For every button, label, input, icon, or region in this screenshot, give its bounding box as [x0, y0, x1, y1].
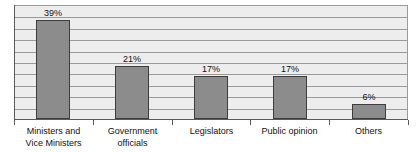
- bars-layer: 39%21%17%17%6%: [14, 5, 408, 119]
- category-label: Ministers and Vice Ministers: [14, 126, 93, 149]
- category-label: Legislators: [172, 126, 251, 138]
- bar-value-label: 17%: [270, 64, 310, 74]
- category-axis-labels: Ministers and Vice MinistersGovernment o…: [14, 126, 408, 152]
- x-axis-line: [14, 119, 408, 120]
- x-axis-tick: [14, 120, 15, 125]
- bar: [36, 20, 70, 119]
- bar-value-label: 17%: [191, 64, 231, 74]
- bar-chart: 39%21%17%17%6% Ministers and Vice Minist…: [0, 0, 418, 152]
- category-label: Public opinion: [250, 126, 329, 138]
- category-label: Government officials: [93, 126, 172, 149]
- x-axis-tick: [329, 120, 330, 125]
- bar-value-label: 21%: [112, 54, 152, 64]
- bar-value-label: 6%: [349, 92, 389, 102]
- bar: [352, 104, 386, 119]
- bar: [194, 76, 228, 119]
- x-axis-tick: [250, 120, 251, 125]
- category-label: Others: [329, 126, 408, 138]
- x-axis-tick: [93, 120, 94, 125]
- bar: [273, 76, 307, 119]
- bar-value-label: 39%: [33, 8, 73, 18]
- x-axis-tick: [172, 120, 173, 125]
- y-axis-line: [14, 5, 15, 123]
- bar: [115, 66, 149, 119]
- x-axis-tick: [408, 120, 409, 125]
